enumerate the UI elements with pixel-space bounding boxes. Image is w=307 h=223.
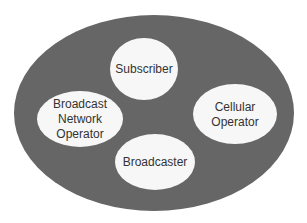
diagram-canvas: SubscriberBroadcastNetworkOperatorCellul…: [0, 0, 307, 223]
node-label: Subscriber: [115, 62, 172, 76]
node-label: Operator: [56, 127, 103, 141]
node-label: Broadcaster: [123, 155, 188, 169]
node-broadcaster: Broadcaster: [115, 134, 195, 190]
node-broadcast-network-operator: BroadcastNetworkOperator: [37, 91, 123, 147]
node-cellular-operator: CellularOperator: [193, 84, 277, 144]
node-label: Cellular: [215, 100, 256, 114]
node-label: Operator: [211, 115, 258, 129]
node-subscriber: Subscriber: [110, 38, 178, 100]
node-label: Broadcast: [53, 97, 108, 111]
node-label: Network: [58, 112, 103, 126]
